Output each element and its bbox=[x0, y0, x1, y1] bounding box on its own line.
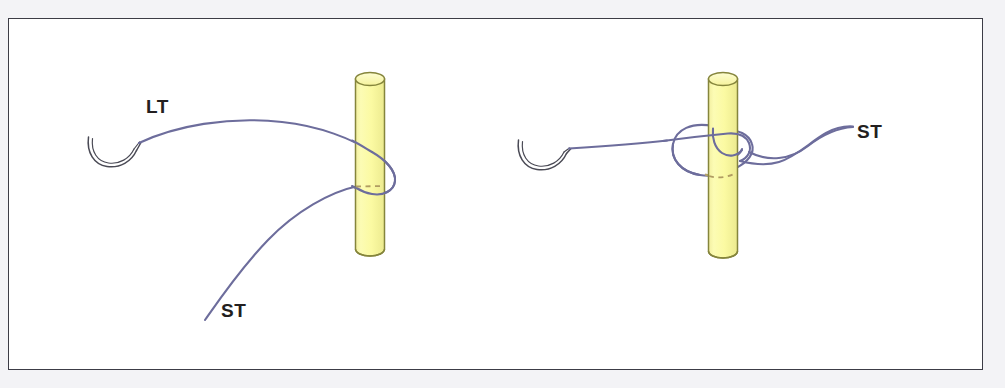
hidden-thread-dashed-left-overlay bbox=[356, 186, 384, 187]
knot-loop-left-edge bbox=[673, 144, 700, 175]
label-st-left: ST bbox=[221, 300, 246, 322]
needle-thread-right bbox=[569, 141, 667, 149]
long-tail-thread-left bbox=[139, 120, 372, 152]
curved-needle-left bbox=[88, 137, 141, 167]
short-tail-thread-right bbox=[749, 127, 853, 158]
left-panel bbox=[88, 73, 395, 321]
figure-canvas bbox=[0, 0, 1005, 388]
label-lt: LT bbox=[146, 96, 169, 118]
curved-needle-right bbox=[518, 140, 571, 170]
figure-page: LT ST ST bbox=[0, 0, 1005, 388]
knot-front-strand-3 bbox=[740, 126, 853, 164]
yellow-rod-left bbox=[356, 73, 385, 257]
right-panel bbox=[518, 73, 853, 259]
yellow-rod-right bbox=[709, 73, 738, 259]
label-st-right: ST bbox=[857, 121, 882, 143]
